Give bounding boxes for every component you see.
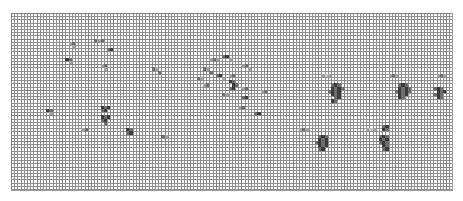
grid-cell[interactable] [229, 58, 232, 61]
grid-cell[interactable] [165, 135, 168, 138]
row-header-strip[interactable] [4, 13, 10, 191]
spreadsheet-app [0, 0, 463, 201]
grid-cell[interactable] [341, 87, 344, 90]
grid-cell[interactable] [209, 71, 212, 74]
grid-cell[interactable] [101, 39, 104, 42]
grid-cell[interactable] [245, 87, 248, 90]
grid-cell[interactable] [408, 90, 411, 93]
grid-cell[interactable] [200, 77, 203, 80]
grid-cell[interactable] [245, 96, 248, 99]
grid-cell[interactable] [107, 106, 110, 109]
grid-cell[interactable] [104, 122, 107, 125]
grid-cell[interactable] [110, 48, 113, 51]
grid-cell[interactable] [129, 131, 132, 134]
grid-cell[interactable] [69, 61, 72, 64]
grid-cell[interactable] [104, 67, 107, 70]
grid-cell[interactable] [222, 77, 225, 80]
grid-cell[interactable] [395, 74, 398, 77]
grid-cell[interactable] [373, 128, 376, 131]
grid-cell[interactable] [337, 96, 340, 99]
filled-cells-layer [11, 13, 452, 190]
worksheet-canvas[interactable] [11, 13, 453, 191]
grid-cell[interactable] [334, 99, 337, 102]
grid-cell[interactable] [216, 58, 219, 61]
grid-cell[interactable] [248, 67, 251, 70]
grid-cell[interactable] [385, 147, 388, 150]
grid-cell[interactable] [443, 90, 446, 93]
column-header-strip[interactable] [11, 6, 453, 12]
grid-cell[interactable] [72, 45, 75, 48]
grid-cell[interactable] [85, 128, 88, 131]
grid-cell[interactable] [398, 96, 401, 99]
grid-cell[interactable] [257, 112, 260, 115]
grid-cell[interactable] [401, 96, 404, 99]
grid-cell[interactable] [405, 93, 408, 96]
grid-cell[interactable] [107, 115, 110, 118]
grid-cell[interactable] [232, 87, 235, 90]
grid-cell[interactable] [104, 109, 107, 112]
grid-cell[interactable] [328, 74, 331, 77]
grid-cell[interactable] [232, 74, 235, 77]
grid-cell[interactable] [443, 74, 446, 77]
grid-cell[interactable] [385, 128, 388, 131]
grid-cell[interactable] [305, 128, 308, 131]
grid-cell[interactable] [264, 90, 267, 93]
grid-cell[interactable] [321, 147, 324, 150]
grid-cell[interactable] [206, 83, 209, 86]
grid-cell[interactable] [440, 96, 443, 99]
grid-cell[interactable] [225, 93, 228, 96]
grid-cell[interactable] [158, 71, 161, 74]
grid-cell[interactable] [49, 112, 52, 115]
grid-cell[interactable] [325, 144, 328, 147]
grid-cell[interactable] [241, 106, 244, 109]
grid-cell[interactable] [235, 83, 238, 86]
